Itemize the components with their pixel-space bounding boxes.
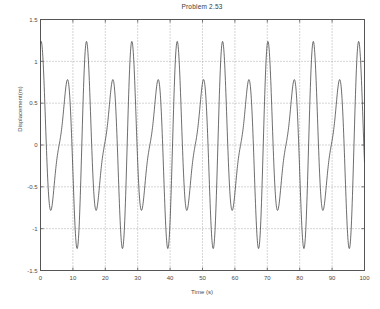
y-axis-label: Displacement(m) [8,59,26,159]
x-tick-label: 30 [134,275,141,281]
y-tick-label: 1.5 [29,17,38,23]
y-tick-label: -1 [32,226,38,232]
x-tick-label: 20 [102,275,109,281]
x-tick-label: 40 [167,275,174,281]
y-tick-label: -0.5 [27,184,38,190]
x-tick-label: 70 [264,275,271,281]
x-tick-label: 90 [329,275,336,281]
x-tick-label: 10 [70,275,77,281]
x-tick-label: 0 [39,275,43,281]
x-tick-label: 60 [232,275,239,281]
x-tick-label: 50 [199,275,206,281]
figure-container: Problem 2.53 0102030405060708090100-1.5-… [0,0,380,309]
x-axis-label-text: Time (s) [40,289,364,295]
x-tick-label: 100 [359,275,370,281]
x-tick-label: 80 [296,275,303,281]
y-tick-label: -1.5 [27,268,38,274]
y-axis-label-text: Displacement(m) [17,86,23,131]
plot-canvas: 0102030405060708090100-1.5-1-0.500.511.5 [0,0,380,309]
grid-layer [41,20,365,271]
y-tick-label: 1 [34,59,38,65]
y-tick-label: 0.5 [29,100,38,106]
y-tick-label: 0 [34,142,38,148]
